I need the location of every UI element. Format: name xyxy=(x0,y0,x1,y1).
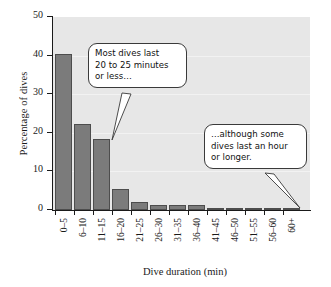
callout-although-some-line-1: …although some xyxy=(211,129,300,141)
callout-most-dives-line-3: or less… xyxy=(95,71,180,83)
callout-most-dives-line-1: Most dives last xyxy=(95,48,180,60)
callout-most-dives-line-2: 20 to 25 minutes xyxy=(95,60,180,72)
callout-although-some-line-2: dives last an hour xyxy=(211,141,300,153)
callout-although-some: …although some dives last an hour or lon… xyxy=(204,124,307,169)
callout-most-dives: Most dives last 20 to 25 minutes or less… xyxy=(88,43,187,88)
callout-although-some-line-3: or longer. xyxy=(211,152,300,164)
dive-duration-histogram-figure: Percentage of dives Dive duration (min) … xyxy=(0,0,331,287)
